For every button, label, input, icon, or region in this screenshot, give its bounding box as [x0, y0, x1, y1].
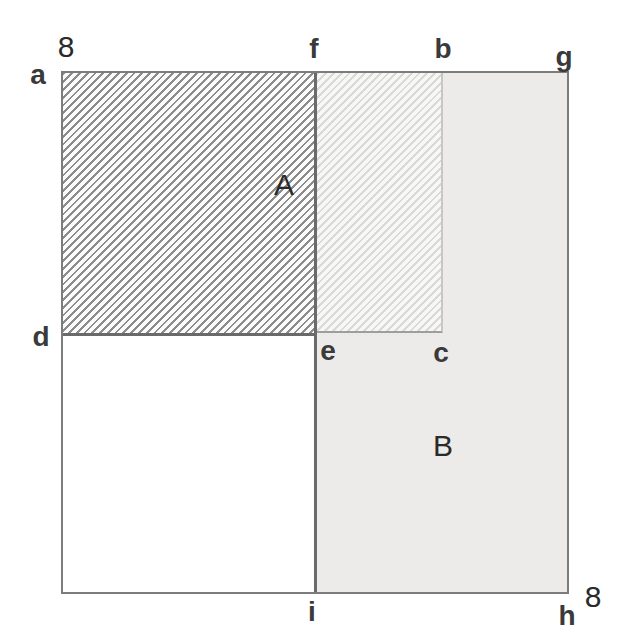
outer-square-border — [61, 71, 569, 594]
point-label-c: c — [433, 339, 449, 367]
point-label-h: h — [558, 602, 575, 630]
diagram-canvas: 8 a f b g d e c A B i h 8 — [0, 0, 623, 643]
point-label-d: d — [32, 323, 49, 351]
region-label-b: B — [433, 431, 453, 461]
point-label-a: a — [30, 61, 46, 89]
side-length-label-bottom: 8 — [585, 582, 602, 612]
point-label-i: i — [308, 598, 316, 626]
region-label-a: A — [274, 170, 294, 200]
point-label-b: b — [434, 35, 451, 63]
point-label-f: f — [309, 35, 318, 63]
point-label-e: e — [320, 337, 336, 365]
point-label-g: g — [555, 43, 572, 71]
side-length-label-top: 8 — [58, 32, 75, 62]
